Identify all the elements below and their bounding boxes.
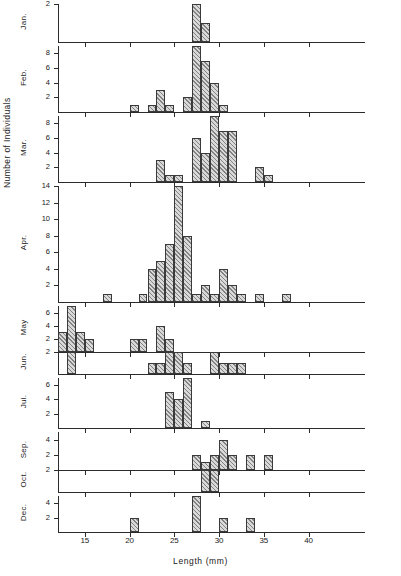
y-axis-line xyxy=(58,186,59,302)
histogram-bar xyxy=(210,455,219,470)
histogram-bar xyxy=(210,294,219,302)
histogram-bar xyxy=(174,352,183,374)
x-tick-label: 25 xyxy=(161,536,187,545)
y-tick-label: 4 xyxy=(28,436,50,444)
y-tick xyxy=(54,123,58,124)
histogram-bar xyxy=(165,352,174,374)
histogram-bar xyxy=(201,23,210,42)
histogram-bar xyxy=(228,455,237,470)
x-axis-line xyxy=(58,374,365,375)
y-tick-label: 2 xyxy=(28,451,50,459)
panel-month-label: Sep. xyxy=(19,433,28,467)
histogram-bar xyxy=(219,440,228,470)
histogram-bar xyxy=(228,363,237,374)
panel-dec: 24Dec. xyxy=(0,496,401,534)
histogram-bar xyxy=(130,105,139,112)
y-tick-label: 4 xyxy=(28,322,50,330)
histogram-bar xyxy=(192,138,201,182)
y-tick-label: 2 xyxy=(28,466,50,474)
histogram-bar xyxy=(148,105,157,112)
x-tick-label: 35 xyxy=(251,536,277,545)
y-tick-label: 8 xyxy=(28,49,50,57)
panel-month-label: Apr. xyxy=(19,226,28,260)
panel-month-label: Dec. xyxy=(19,496,28,530)
histogram-bar xyxy=(255,294,264,302)
y-tick-label: 4 xyxy=(28,499,50,507)
histogram-bar xyxy=(165,244,174,302)
y-tick-label: 10 xyxy=(28,215,50,223)
x-axis-line xyxy=(58,302,365,303)
y-tick xyxy=(54,503,58,504)
histogram-bar xyxy=(67,352,76,374)
y-tick xyxy=(54,138,58,139)
histogram-bar xyxy=(210,83,219,112)
histogram-bar xyxy=(219,105,228,112)
panel-month-label: Mar. xyxy=(19,131,28,165)
histogram-bar xyxy=(219,518,228,532)
panel-sep: 24Sep. xyxy=(0,432,401,472)
y-axis-line xyxy=(58,378,59,428)
y-axis-line xyxy=(58,352,59,374)
y-tick xyxy=(54,313,58,314)
y-axis-line xyxy=(58,432,59,470)
histogram-bar xyxy=(165,339,174,352)
y-tick-label: 2 xyxy=(28,335,50,343)
panel-month-label: Jun. xyxy=(19,345,28,379)
panel-mar: 2468Mar. xyxy=(0,116,401,184)
y-tick-label: 2 xyxy=(28,410,50,418)
histogram-bar xyxy=(282,294,291,302)
panel-jul: 246Jul. xyxy=(0,378,401,430)
panel-month-label: Jul. xyxy=(19,385,28,419)
histogram-bar xyxy=(246,455,255,470)
y-tick-label: 6 xyxy=(28,64,50,72)
y-tick xyxy=(54,203,58,204)
histogram-bar xyxy=(210,470,219,492)
y-axis-line xyxy=(58,46,59,112)
histogram-bar xyxy=(174,186,183,302)
x-tick-label: 15 xyxy=(72,536,98,545)
x-axis-line xyxy=(58,42,365,43)
x-axis-line xyxy=(58,182,365,183)
y-tick xyxy=(54,53,58,54)
histogram-bar xyxy=(201,285,210,302)
histogram-bar xyxy=(228,131,237,182)
y-tick xyxy=(54,326,58,327)
histogram-bar xyxy=(156,261,165,302)
y-tick-label: 12 xyxy=(28,199,50,207)
y-tick xyxy=(54,97,58,98)
histogram-bar xyxy=(165,392,174,428)
y-tick-label: 2 xyxy=(28,93,50,101)
histogram-bar xyxy=(201,470,210,492)
y-tick xyxy=(54,68,58,69)
histogram-bar xyxy=(255,167,264,182)
histogram-bar xyxy=(58,332,67,352)
y-tick-label: 4 xyxy=(28,79,50,87)
y-tick-label: 2 xyxy=(28,163,50,171)
histogram-bar xyxy=(192,294,201,302)
histogram-bar xyxy=(201,153,210,182)
histogram-bar xyxy=(156,160,165,182)
histogram-bar xyxy=(210,116,219,182)
y-tick xyxy=(54,83,58,84)
x-axis-title: Length (mm) xyxy=(0,556,401,566)
histogram-bar xyxy=(165,105,174,112)
histogram-bar xyxy=(139,294,148,302)
y-tick xyxy=(54,167,58,168)
histogram-bar xyxy=(264,175,273,182)
histogram-bar xyxy=(192,455,201,470)
x-tick-label: 40 xyxy=(296,536,322,545)
histogram-bar xyxy=(156,363,165,374)
y-tick xyxy=(54,186,58,187)
y-axis-line xyxy=(58,496,59,532)
y-tick xyxy=(54,385,58,386)
y-tick-label: 8 xyxy=(28,232,50,240)
histogram-bar xyxy=(148,269,157,302)
x-axis-line xyxy=(58,428,365,429)
y-tick-label: 4 xyxy=(28,265,50,273)
y-tick xyxy=(54,455,58,456)
histogram-bar xyxy=(156,326,165,352)
histogram-bar xyxy=(103,294,112,302)
histogram-bar xyxy=(85,339,94,352)
y-tick-label: 2 xyxy=(28,0,50,8)
histogram-bar xyxy=(130,339,139,352)
